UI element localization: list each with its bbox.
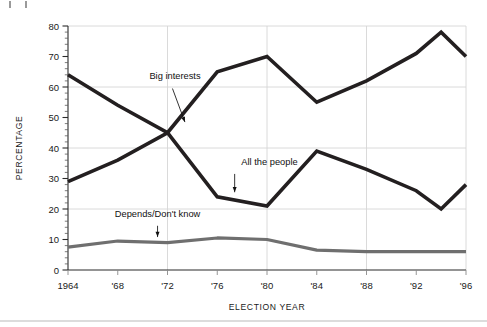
y-tick-label-60: 60 — [48, 82, 59, 93]
y-axis-tick-labels: 01020304050607080 — [48, 21, 59, 276]
y-tick-label-10: 10 — [48, 234, 59, 245]
annotation-label: All the people — [241, 157, 297, 167]
y-tick-label-40: 40 — [48, 143, 59, 154]
y-tick-label-80: 80 — [48, 21, 59, 32]
x-tick-label-1992: '92 — [410, 280, 422, 291]
annotation-label: Depends/Don't know — [115, 209, 201, 219]
x-tick-label-1968: '68 — [112, 280, 124, 291]
x-axis-tick-labels: 1964'68'72'76'80'84'88'92'96 — [57, 280, 472, 291]
y-tick-label-50: 50 — [48, 112, 59, 123]
y-axis-title: PERCENTAGE — [14, 116, 24, 181]
x-tick-label-1972: '72 — [161, 280, 173, 291]
x-tick-label-1980: '80 — [261, 280, 273, 291]
y-tick-label-30: 30 — [48, 173, 59, 184]
x-tick-label-1988: '88 — [360, 280, 372, 291]
x-axis-title: ELECTION YEAR — [229, 302, 305, 312]
annotation-label: Big interests — [149, 71, 201, 81]
chart-figure: 01020304050607080 1964'68'72'76'80'84'88… — [0, 0, 487, 327]
y-tick-label-20: 20 — [48, 204, 59, 215]
x-tick-label-1996: '96 — [460, 280, 472, 291]
line-chart: 01020304050607080 1964'68'72'76'80'84'88… — [0, 0, 487, 327]
x-tick-label-1964: 1964 — [57, 280, 78, 291]
x-tick-label-1976: '76 — [211, 280, 223, 291]
y-tick-label-70: 70 — [48, 51, 59, 62]
y-tick-label-0: 0 — [54, 265, 59, 276]
x-tick-label-1984: '84 — [311, 280, 323, 291]
